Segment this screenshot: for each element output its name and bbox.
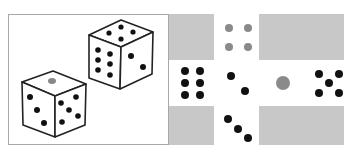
net-face-top: [225, 24, 252, 51]
die-back: [89, 20, 153, 89]
die-front: [22, 71, 86, 137]
net-face-left: [181, 67, 204, 99]
net-face-bottom: [224, 115, 252, 142]
net-face-far-right: [315, 70, 343, 97]
net-face-center: [227, 72, 249, 95]
die-net-panel: [168, 14, 343, 145]
net-face-right-inner: [276, 76, 290, 90]
dice-3d-panel: [8, 14, 168, 145]
net-background-blocks: [169, 14, 344, 145]
